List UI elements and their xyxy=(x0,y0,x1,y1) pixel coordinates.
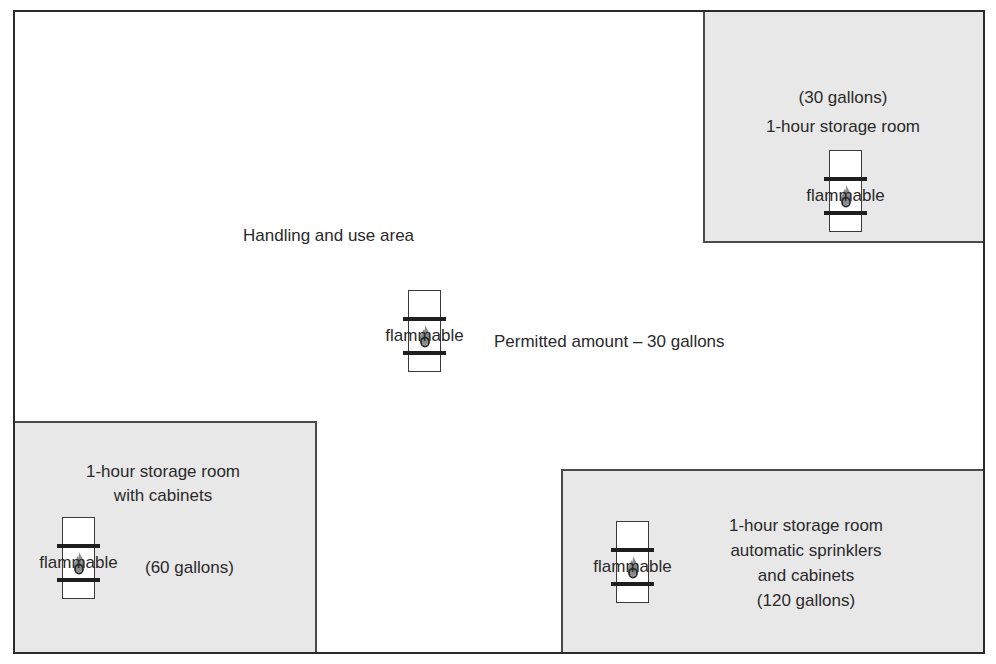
permitted-amount-label: Permitted amount – 30 gallons xyxy=(494,330,725,353)
room-bottom-left-subtitle: with cabinets xyxy=(63,484,263,507)
room-bottom-right-cabinets: and cabinets xyxy=(706,564,906,587)
storage-room-bottom-left xyxy=(15,421,317,652)
flammable-drum-icon: flammable xyxy=(408,290,441,372)
drum-band-bottom xyxy=(611,582,654,586)
drum-band-top xyxy=(57,544,100,548)
drum-label: flammable xyxy=(39,553,117,573)
room-bottom-right-title: 1-hour storage room xyxy=(706,514,906,537)
room-bottom-left-capacity: (60 gallons) xyxy=(145,556,234,579)
room-top-right-capacity: (30 gallons) xyxy=(753,86,933,109)
floor-plan-diagram: (30 gallons) 1-hour storage room flammab… xyxy=(0,0,996,664)
room-bottom-right-sprinklers: automatic sprinklers xyxy=(706,539,906,562)
handling-area-label: Handling and use area xyxy=(243,224,414,247)
drum-label: flammable xyxy=(385,326,463,346)
flammable-drum-icon: flammable xyxy=(616,521,649,603)
drum-band-bottom xyxy=(57,578,100,582)
room-bottom-right-capacity: (120 gallons) xyxy=(706,589,906,612)
drum-band-top xyxy=(611,548,654,552)
flammable-drum-icon: flammable xyxy=(62,517,95,599)
drum-band-top xyxy=(824,177,867,181)
drum-band-bottom xyxy=(403,351,446,355)
drum-label: flammable xyxy=(806,186,884,206)
drum-band-top xyxy=(403,317,446,321)
drum-band-bottom xyxy=(824,211,867,215)
flammable-drum-icon: flammable xyxy=(829,150,862,232)
room-bottom-left-title: 1-hour storage room xyxy=(63,460,263,483)
drum-label: flammable xyxy=(593,557,671,577)
room-top-right-title: 1-hour storage room xyxy=(743,115,943,138)
